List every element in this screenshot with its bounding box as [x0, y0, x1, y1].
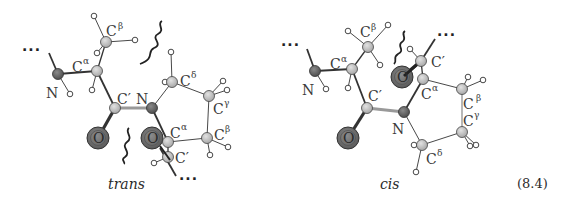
trans-label-cb1-sup: β [118, 21, 123, 31]
trans-label-cp2: C′ [175, 150, 189, 166]
cis-atom-cb2 [457, 84, 468, 95]
trans-wavy-mark-top [140, 21, 162, 64]
cis-label-cb1: C [360, 24, 371, 40]
trans-label-cg: C [213, 101, 224, 117]
cis-wavy-mark [394, 31, 405, 64]
cis-atom-cp1 [362, 103, 373, 114]
trans-label-ca2-sup: α [181, 122, 187, 132]
cis-label-cp2: C′ [431, 54, 445, 70]
trans-label-ca2: C [170, 125, 181, 141]
peptide-isomer-figure: ··· ··· N C α C β C′ N O O C δ C γ C β C… [0, 0, 565, 208]
trans-atom-n1 [53, 69, 64, 80]
cis-label-cb2-sup: β [476, 93, 481, 103]
trans-atom-cd [167, 77, 178, 88]
cis-label-ca1-sup: α [341, 54, 347, 64]
trans-label-n2: N [136, 91, 148, 107]
cis-label-cd: C [426, 151, 437, 167]
cis-label-n1: N [302, 82, 314, 98]
trans-label-n1: N [46, 85, 58, 101]
cis-atom-ca2 [418, 74, 429, 85]
cis-chain-dots-start: ··· [281, 37, 300, 53]
trans-chain-dots-start: ··· [22, 42, 41, 58]
trans-label-cb1: C [106, 23, 117, 39]
cis-bonds [307, 25, 483, 172]
cis-label-cp1: C′ [368, 88, 382, 104]
cis-label-ca2: C [421, 86, 432, 102]
cis-label-n2: N [392, 121, 404, 137]
cis-chain-dots-end: ··· [437, 27, 456, 43]
cis-label-cg: C [463, 113, 474, 129]
trans-label-ca1: C [72, 59, 83, 75]
trans-label-cg-sup: γ [224, 98, 229, 108]
cis-label-o2: O [397, 69, 408, 85]
trans-label-cb2-sup: β [225, 124, 230, 134]
trans-atom-cg [204, 91, 215, 102]
trans-label-o1: O [93, 130, 104, 146]
cis-label-cb1-sup: β [371, 22, 376, 32]
cis-caption: cis [380, 176, 400, 192]
cis-atom-cb1 [363, 42, 374, 53]
trans-atom-ca1 [92, 66, 103, 77]
cis-label-ca2-sup: α [432, 83, 438, 93]
cis-label-o1: O [343, 130, 354, 146]
trans-label-o2: O [147, 130, 158, 146]
trans-caption: trans [108, 176, 145, 192]
cis-label-ca1: C [330, 56, 341, 72]
trans-label-cd: C [180, 73, 191, 89]
cis-isomer: ··· ··· N C α C β C′ N O O C′ C α C β C … [281, 22, 486, 192]
cis-atom-n1 [310, 66, 321, 77]
cis-label-cd-sup: δ [437, 148, 442, 158]
trans-wavy-mark-bottom [123, 128, 130, 164]
cis-atom-cp2 [416, 56, 427, 67]
equation-number: (8.4) [517, 176, 548, 191]
trans-label-cb2: C [214, 127, 225, 143]
trans-label-cp1: C′ [117, 91, 131, 107]
cis-label-cb2: C [463, 96, 474, 112]
cis-atom-ca1 [347, 64, 358, 75]
cis-atom-cd [417, 140, 428, 151]
trans-chain-dots-end: ··· [179, 171, 198, 187]
trans-label-ca1-sup: α [83, 56, 89, 66]
cis-atom-n2 [399, 107, 410, 118]
trans-label-cd-sup: δ [191, 70, 196, 80]
trans-isomer: ··· ··· N C α C β C′ N O O C δ C γ C β C… [22, 13, 231, 192]
trans-atom-cb2 [202, 133, 213, 144]
cis-label-cg-sup: γ [474, 110, 479, 120]
